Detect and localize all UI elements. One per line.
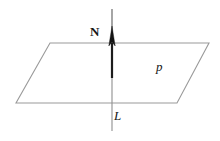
plane-label: p xyxy=(156,60,163,73)
geometry-figure: N L p xyxy=(0,0,220,141)
normal-vector-label: N xyxy=(90,25,99,38)
figure-canvas xyxy=(0,0,220,141)
line-label: L xyxy=(114,109,121,122)
